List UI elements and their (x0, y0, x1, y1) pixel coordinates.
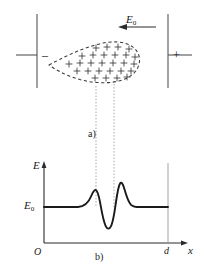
left-plate-sign: – (42, 49, 48, 61)
panel-b-caption: b) (95, 252, 103, 262)
field-curve (44, 183, 168, 229)
physics-figure: E0 – + a) b) E E0 O d x (0, 0, 205, 272)
x-axis-label: x (188, 245, 193, 256)
field-arrow-e0 (118, 24, 156, 30)
y-axis-arrowhead (42, 161, 47, 168)
y-axis-label: E (33, 160, 40, 171)
figure-canvas (0, 0, 205, 272)
baseline-label-e0: E0 (24, 200, 34, 213)
cloud-charge-marks (66, 44, 138, 81)
right-plate-sign: + (173, 49, 180, 61)
origin-label: O (34, 247, 41, 257)
x-tick-label-d: d (164, 246, 169, 256)
projection-lines (96, 84, 114, 207)
panel-a-caption: a) (88, 129, 96, 139)
field-label-e0: E0 (126, 14, 136, 27)
panel-b-group (42, 161, 188, 245)
x-axis-arrowhead (181, 241, 188, 246)
